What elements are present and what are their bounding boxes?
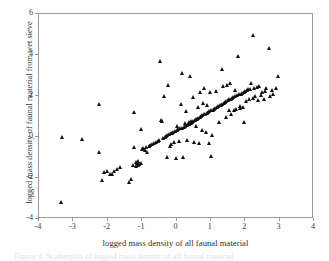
- data-point: [207, 141, 211, 145]
- data-point: [181, 155, 185, 159]
- x-axis-tick-label: -2: [97, 222, 117, 231]
- data-point: [220, 67, 224, 71]
- data-point: [160, 119, 164, 123]
- x-axis-tick-label: -3: [62, 222, 82, 231]
- data-point: [209, 154, 213, 158]
- data-point: [249, 81, 253, 85]
- data-point: [118, 165, 122, 169]
- data-point: [172, 140, 176, 144]
- y-axis-tick-label: 4: [19, 49, 33, 58]
- data-point: [202, 86, 206, 90]
- data-point: [242, 120, 246, 124]
- x-axis-tick: [72, 218, 73, 221]
- scatter-plot-figure: logged mass density of faunal material f…: [0, 0, 329, 261]
- data-point: [197, 141, 201, 145]
- x-axis-tick-label: 1: [200, 222, 220, 231]
- data-point: [271, 92, 275, 96]
- data-point: [241, 105, 245, 109]
- axis-line-right: [312, 13, 313, 218]
- data-point: [80, 137, 84, 141]
- y-axis-tick: [35, 95, 38, 96]
- x-axis-tick-label: -4: [28, 222, 48, 231]
- x-axis-tick-label: 0: [166, 222, 186, 231]
- figure-caption-partial: Figure 4. Scatterplot of logged mass den…: [14, 252, 314, 261]
- data-point: [184, 109, 188, 113]
- y-axis-tick-label: -4: [19, 213, 33, 222]
- y-axis-tick-label: 2: [19, 90, 33, 99]
- data-point: [132, 145, 136, 149]
- data-point: [97, 150, 101, 154]
- data-point: [97, 102, 101, 106]
- data-point: [205, 103, 209, 107]
- y-axis-tick: [35, 136, 38, 137]
- x-axis-tick-label: 3: [269, 222, 289, 231]
- data-point: [267, 46, 271, 50]
- data-point: [60, 135, 64, 139]
- data-point: [129, 177, 133, 181]
- x-axis-tick-label: 4: [303, 222, 323, 231]
- data-point: [191, 95, 195, 99]
- data-point: [276, 74, 280, 78]
- data-point: [59, 200, 63, 204]
- data-point: [100, 178, 104, 182]
- x-axis-tick: [107, 218, 108, 221]
- data-point: [192, 140, 196, 144]
- data-point: [204, 130, 208, 134]
- data-point: [264, 86, 268, 90]
- data-point: [274, 86, 278, 90]
- data-point: [139, 161, 143, 165]
- data-point: [229, 112, 233, 116]
- y-axis-tick-label: -2: [19, 172, 33, 181]
- y-axis-title: logged mass density of faunal material f…: [25, 6, 34, 220]
- y-axis-tick: [35, 218, 38, 219]
- data-point: [166, 83, 170, 87]
- x-axis-tick: [176, 218, 177, 221]
- data-point: [251, 33, 255, 37]
- y-axis-tick: [35, 54, 38, 55]
- y-axis-tick-label: 6: [19, 8, 33, 17]
- data-point: [236, 54, 240, 58]
- x-axis-title: logged mass density of all faunal materi…: [38, 238, 313, 248]
- data-point: [210, 133, 214, 137]
- data-point: [228, 81, 232, 85]
- data-point: [132, 110, 136, 114]
- data-point: [262, 97, 266, 101]
- data-point: [174, 156, 178, 160]
- x-axis-tick: [38, 218, 39, 221]
- data-point: [185, 138, 189, 142]
- x-axis-tick: [141, 218, 142, 221]
- x-axis-tick: [313, 218, 314, 221]
- axis-line-top: [38, 13, 313, 14]
- data-point: [196, 105, 200, 109]
- y-axis-tick: [35, 13, 38, 14]
- x-axis-tick: [210, 218, 211, 221]
- x-axis-tick: [244, 218, 245, 221]
- data-point: [224, 115, 228, 119]
- data-point: [162, 94, 166, 98]
- data-point: [208, 90, 212, 94]
- data-point: [257, 84, 261, 88]
- data-point: [214, 89, 218, 93]
- data-point: [139, 127, 143, 131]
- y-axis-tick: [35, 177, 38, 178]
- data-point: [145, 150, 149, 154]
- data-point: [180, 71, 184, 75]
- x-axis-tick-label: -1: [131, 222, 151, 231]
- data-point: [165, 155, 169, 159]
- data-point: [198, 90, 202, 94]
- y-axis-tick-label: 0: [19, 131, 33, 140]
- data-point: [256, 98, 260, 102]
- data-point: [158, 59, 162, 63]
- x-axis-tick: [279, 218, 280, 221]
- data-point: [194, 124, 198, 128]
- data-point: [188, 74, 192, 78]
- data-point: [179, 102, 183, 106]
- x-axis-tick-label: 2: [234, 222, 254, 231]
- data-point: [217, 120, 221, 124]
- y-axis-line: [38, 13, 39, 218]
- plot-area: -4-3-2-101234 -4-20246: [38, 13, 313, 218]
- data-point: [177, 139, 181, 143]
